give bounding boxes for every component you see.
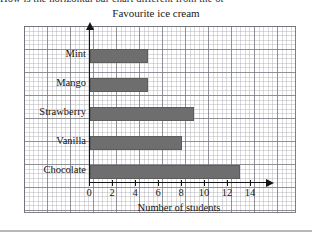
x-tick-label-4: 4 xyxy=(126,187,144,198)
x-tick-mark-4 xyxy=(135,180,136,186)
x-tick-label-2: 2 xyxy=(103,187,121,198)
category-label-wrap: Vanilla xyxy=(24,135,89,153)
x-tick-label-8: 8 xyxy=(172,187,190,198)
category-label-mint: Mint xyxy=(27,48,89,59)
cutoff-question-text: How is the horizontal bar chart differen… xyxy=(0,0,312,7)
category-label-wrap: Strawberry xyxy=(24,106,89,124)
category-label-chocolate: Chocolate xyxy=(27,164,89,175)
x-tick-mark-14 xyxy=(250,180,251,186)
x-axis-title: Number of students xyxy=(89,202,269,213)
category-label-vanilla: Vanilla xyxy=(27,135,89,146)
chart-title: Favourite ice cream xyxy=(0,7,312,19)
x-tick-label-0: 0 xyxy=(80,187,98,198)
bar-chart-plot-area: MintMangoStrawberryVanillaChocolate 0246… xyxy=(24,26,296,213)
bar-chocolate xyxy=(90,165,240,179)
x-tick-mark-8 xyxy=(181,180,182,186)
bar-mint xyxy=(90,49,148,63)
x-tick-label-12: 12 xyxy=(218,187,236,198)
category-label-wrap: Chocolate xyxy=(24,164,89,182)
bar-vanilla xyxy=(90,136,182,150)
x-tick-label-14: 14 xyxy=(241,187,259,198)
x-tick-mark-6 xyxy=(158,180,159,186)
x-tick-mark-10 xyxy=(204,180,205,186)
x-axis-arrow-icon xyxy=(266,179,274,187)
bottom-divider xyxy=(0,230,312,232)
x-tick-mark-12 xyxy=(227,180,228,186)
category-label-wrap: Mint xyxy=(24,48,89,66)
category-label-wrap: Mango xyxy=(24,77,89,95)
x-tick-mark-2 xyxy=(112,180,113,186)
bar-strawberry xyxy=(90,107,194,121)
x-tick-label-10: 10 xyxy=(195,187,213,198)
category-label-strawberry: Strawberry xyxy=(27,106,89,117)
y-axis-arrow-icon xyxy=(86,22,94,30)
x-axis-line xyxy=(89,182,267,183)
x-tick-label-6: 6 xyxy=(149,187,167,198)
x-tick-mark-0 xyxy=(89,180,90,186)
bar-mango xyxy=(90,78,148,92)
category-label-mango: Mango xyxy=(27,77,89,88)
